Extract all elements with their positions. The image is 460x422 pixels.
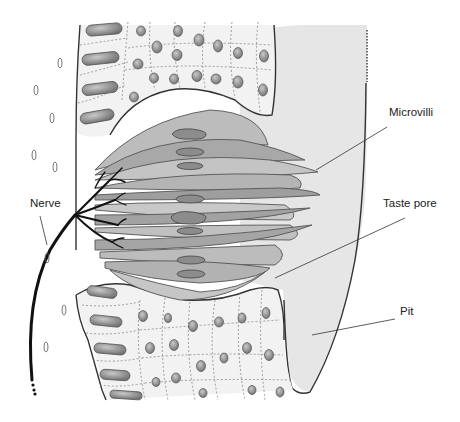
- label-taste-pore: Taste pore: [383, 197, 437, 209]
- taste-bud-diagram: [0, 0, 460, 422]
- label-pit: Pit: [400, 305, 413, 317]
- nerve-pointer: [40, 216, 47, 245]
- label-microvilli: Microvilli: [389, 106, 433, 118]
- nerve-dots: [31, 383, 36, 395]
- label-nerve: Nerve: [30, 197, 61, 209]
- lower-epithelium: [76, 284, 293, 400]
